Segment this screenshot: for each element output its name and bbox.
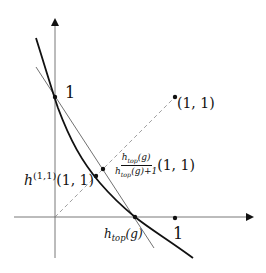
point-frac xyxy=(101,167,105,171)
point-x-one xyxy=(173,216,177,220)
label-x-one: 1 xyxy=(173,226,183,242)
label-y-one: 1 xyxy=(65,85,75,101)
label-point-one-one: (1, 1) xyxy=(177,96,215,110)
fraction: htop(g) htop(g)+1 xyxy=(115,153,157,178)
label-h11: h(1,1)(1, 1) xyxy=(24,171,94,187)
label-fraction: htop(g) htop(g)+1 (1, 1) xyxy=(115,153,195,178)
point-h11 xyxy=(94,174,98,178)
curve xyxy=(36,38,193,258)
point-y-intercept xyxy=(53,95,57,99)
point-h-top xyxy=(133,215,137,219)
label-h-top: htop(g) xyxy=(104,228,143,243)
